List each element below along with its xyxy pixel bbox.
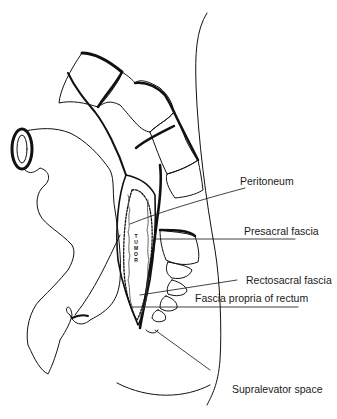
- body-outline: [196, 13, 221, 405]
- label-supralevator-space: Supralevator space: [232, 384, 322, 395]
- leader-supralevator-space: [155, 330, 210, 370]
- coccyx-segment-3: [160, 296, 177, 311]
- colon-outline: [25, 129, 121, 374]
- label-fascia-propria: Fascia propria of rectum: [195, 293, 308, 304]
- tumor-label: TUMOR: [133, 233, 139, 263]
- coccyx-segment-4: [152, 310, 166, 322]
- vertebra-4: [166, 160, 203, 198]
- label-presacral-fascia: Presacral fascia: [244, 226, 319, 237]
- label-rectosacral-fascia: Rectosacral fascia: [246, 275, 332, 286]
- vertebra-2: [98, 72, 174, 132]
- anatomy-diagram: [0, 0, 337, 419]
- label-peritoneum: Peritoneum: [240, 176, 294, 187]
- pelvic-floor-curve: [117, 383, 210, 395]
- vertebra-1: [59, 53, 122, 107]
